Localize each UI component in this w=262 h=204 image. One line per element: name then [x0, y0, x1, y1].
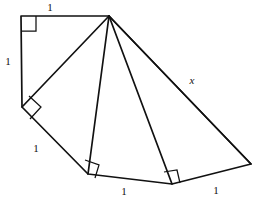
label-top-edge: 1: [47, 2, 53, 13]
spoke-to-bottom-left-corner: [88, 16, 109, 174]
right-angle-marker-top-left: [21, 16, 36, 31]
spoke-to-left-corner: [22, 16, 109, 107]
geometry-figure: 1 1 1 1 1 x: [0, 0, 262, 204]
label-lower-left-edge: 1: [33, 143, 39, 154]
label-bottom-right-edge: 1: [213, 185, 219, 196]
right-angle-marker-bottom-mid: [164, 170, 180, 183]
label-bottom-edge: 1: [121, 186, 127, 197]
label-left-edge: 1: [5, 56, 11, 67]
spoke-to-bottom-mid-corner: [109, 16, 172, 184]
polygon-outline: [21, 16, 251, 184]
label-hypotenuse-x: x: [190, 75, 195, 86]
spoke-to-right-corner: [109, 16, 251, 164]
figure-canvas: [0, 0, 262, 204]
